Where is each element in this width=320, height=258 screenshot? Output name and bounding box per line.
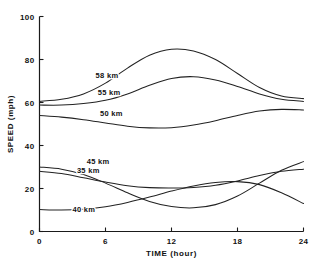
chart-axis-titles: TIME (hour)SPEED (mph) [6, 95, 197, 258]
x-tick-label-24: 24 [299, 237, 309, 246]
y-tick-label-20: 20 [25, 185, 35, 194]
series-label-35-km: 35 km [77, 166, 100, 175]
chart-series-labels: 58 km58 km55 km55 km50 km50 km45 km45 km… [73, 71, 123, 214]
y-tick-label-0: 0 [30, 228, 35, 237]
series-label-50-km: 50 km [100, 109, 123, 118]
chart-curves [40, 49, 304, 210]
chart-canvas: 02040608010006121824 58 km58 km55 km55 k… [0, 0, 320, 258]
x-tick-label-12: 12 [167, 237, 177, 246]
speed-vs-time-chart: 02040608010006121824 58 km58 km55 km55 k… [0, 0, 320, 258]
y-tick-label-40: 40 [25, 142, 35, 151]
curve-50-km [40, 109, 304, 128]
x-axis-title: TIME (hour) [146, 249, 197, 258]
x-tick-label-6: 6 [103, 237, 108, 246]
series-label-58-km: 58 km [96, 71, 119, 80]
series-label-55-km: 55 km [98, 88, 121, 97]
y-tick-label-80: 80 [25, 56, 35, 65]
curve-55-km [40, 77, 304, 106]
series-label-45-km: 45 km [87, 157, 110, 166]
curve-58-km [40, 49, 304, 102]
y-axis-title: SPEED (mph) [6, 95, 15, 153]
chart-tick-labels: 02040608010006121824 [20, 13, 309, 246]
y-tick-label-100: 100 [20, 13, 35, 22]
x-tick-label-0: 0 [37, 237, 42, 246]
y-tick-label-60: 60 [25, 99, 35, 108]
x-tick-label-18: 18 [233, 237, 243, 246]
series-label-40-km: 40 km [73, 205, 96, 214]
